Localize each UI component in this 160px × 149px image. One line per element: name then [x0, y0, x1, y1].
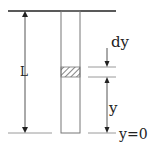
dy-label: dy — [111, 33, 130, 51]
dy-arrow — [105, 48, 110, 67]
origin-label: y=0 — [118, 126, 148, 142]
rod-diagram: L dy y y=0 — [0, 0, 160, 149]
y-label: y — [108, 99, 118, 117]
length-label: L — [20, 65, 28, 79]
diagram-canvas: L dy y y=0 — [0, 0, 160, 149]
hatched-element — [61, 67, 80, 77]
